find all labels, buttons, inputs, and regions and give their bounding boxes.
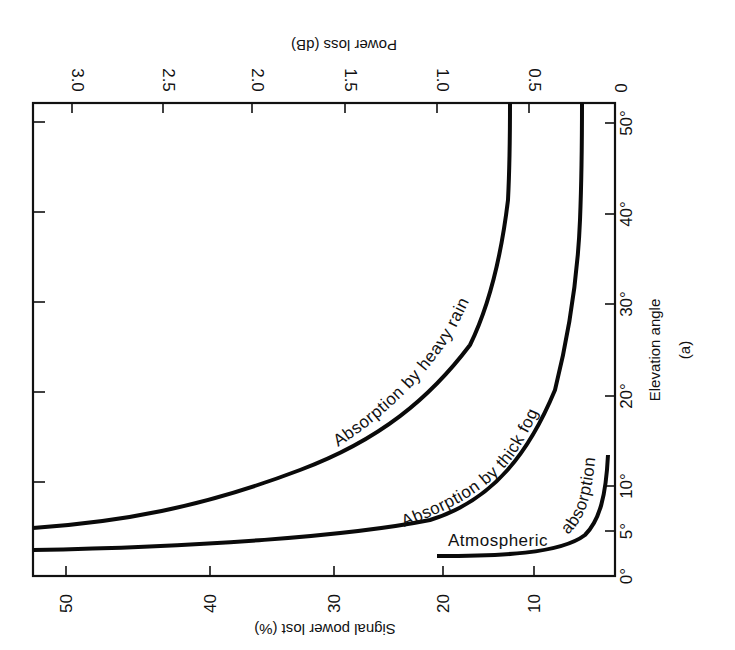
chart-svg: 3.0 2.5 2.0 1.5 1.0 0.5 0 Power loss (dB… [0,0,735,650]
label-thick-fog: Absorption by thick fog [399,405,542,531]
top-tick-label: 2.0 [248,68,267,92]
right-tick-label: 20° [617,383,636,409]
top-tick-label: 3.0 [68,68,87,92]
right-tick-label: 0° [617,568,636,584]
bottom-axis-labels: 50 40 30 20 10 [57,594,544,613]
left-axis-ticks [33,122,45,482]
top-tick-label: 1.5 [341,68,360,92]
curve-thick-fog [33,103,582,550]
label-atmospheric: Atmospheric [448,531,548,550]
bottom-tick-label: 30 [325,594,344,613]
plot-frame [33,103,615,576]
bottom-tick-label: 20 [434,594,453,613]
right-tick-label: 30° [617,291,636,317]
right-axis-labels: 0° 5° 10° 20° 30° 40° 50° [617,110,636,584]
right-tick-label: 50° [617,110,636,136]
right-tick-label: 10° [617,473,636,499]
label-heavy-rain: Absorption by heavy rain [330,294,473,450]
curve-heavy-rain [33,103,510,528]
bottom-tick-label: 40 [201,594,220,613]
right-tick-label: 40° [617,201,636,227]
top-axis-ticks [72,103,529,113]
top-tick-label: 2.5 [159,68,178,92]
bottom-tick-label: 10 [525,594,544,613]
figure-caption: (a) [676,341,693,359]
top-tick-label: 0 [611,83,630,92]
bottom-axis-ticks [66,566,534,576]
top-tick-label: 1.0 [433,68,452,92]
top-axis-labels: 3.0 2.5 2.0 1.5 1.0 0.5 0 [68,68,630,93]
right-axis-title: Elevation angle [646,299,663,402]
bottom-tick-label: 50 [57,594,76,613]
top-tick-label: 0.5 [525,68,544,92]
bottom-axis-title: Signal power lost (%) [254,621,396,638]
right-tick-label: 5° [617,523,636,539]
top-axis-title: Power loss (dB) [291,37,397,54]
